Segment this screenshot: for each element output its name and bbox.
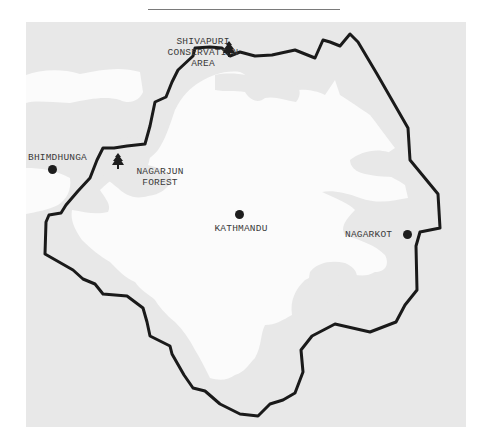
tree-icon: [112, 153, 124, 169]
nagarjun-label-line-2: FOREST: [129, 177, 191, 188]
kathmandu-valley-map: [0, 0, 489, 442]
nagarjun-label-line-1: NAGARJUN: [129, 166, 191, 177]
bhimdhunga-label: BHIMDHUNGA: [28, 152, 87, 163]
town-dot-icon: [48, 165, 57, 174]
town-dot-icon: [403, 230, 412, 239]
kathmandu-label: KATHMANDU: [204, 223, 278, 234]
nagarjun-label: NAGARJUN FOREST: [129, 166, 191, 188]
shivapuri-label-line-3: AREA: [166, 58, 240, 69]
tree-icon: [223, 41, 235, 57]
lowland-area-northwest: [26, 69, 143, 103]
nagarkot-label: NAGARKOT: [345, 229, 392, 240]
city-dot-icon: [235, 210, 244, 219]
